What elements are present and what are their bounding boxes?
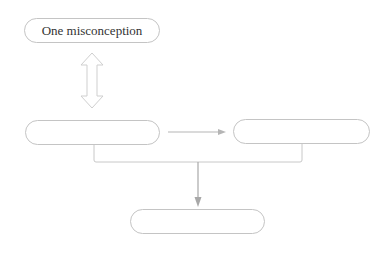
- merge-connector: [94, 143, 302, 162]
- node-middle-right: [233, 119, 370, 144]
- node-top: One misconception: [24, 18, 160, 43]
- right-arrow-icon: [168, 129, 226, 135]
- double-arrow-icon: [81, 53, 103, 108]
- node-middle-left: [25, 120, 160, 145]
- node-bottom: [130, 209, 265, 234]
- down-arrow-icon: [195, 162, 202, 207]
- node-top-label: One misconception: [42, 23, 143, 39]
